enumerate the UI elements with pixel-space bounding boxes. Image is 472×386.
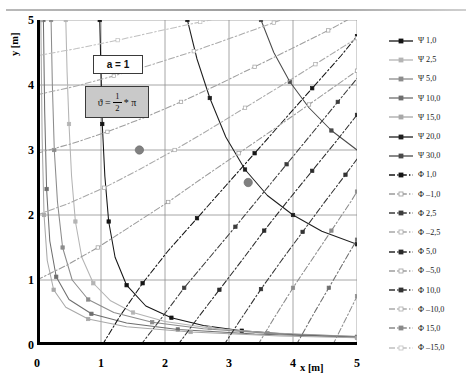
curve-marker xyxy=(330,229,333,232)
legend-item[interactable]: Φ –10,0 xyxy=(388,300,472,319)
curve-marker xyxy=(259,287,262,290)
x-tick-1: 1 xyxy=(91,356,111,371)
curve-marker xyxy=(183,286,186,289)
legend-item[interactable]: Φ 2,5 xyxy=(388,204,472,223)
curve-path xyxy=(37,38,357,215)
legend-item[interactable]: Φ –15,0 xyxy=(388,338,472,357)
annotation-theta: ϑ = 1 2 * π xyxy=(85,86,149,118)
curve-path xyxy=(296,240,357,345)
curve-marker xyxy=(112,74,115,77)
curve-marker xyxy=(125,284,128,287)
curve-marker xyxy=(141,282,144,285)
curve-marker xyxy=(45,187,48,190)
curve-marker xyxy=(64,20,67,22)
curve-marker xyxy=(234,225,237,228)
y-tick-2: 2 xyxy=(16,208,34,223)
legend-item[interactable]: Φ –2,5 xyxy=(388,223,472,242)
x-tick-5: 5 xyxy=(347,356,367,371)
highlight-point[interactable] xyxy=(135,146,143,154)
curve-marker xyxy=(355,190,357,193)
legend-label: Ψ 2,5 xyxy=(414,55,436,64)
theta-numerator: 1 xyxy=(115,92,119,102)
curve-marker xyxy=(243,168,246,171)
legend-item[interactable]: Φ 10,0 xyxy=(388,280,472,299)
x-tick-2: 2 xyxy=(155,356,175,371)
legend-item[interactable]: Φ 5,0 xyxy=(388,242,472,261)
chart-figure: 5 4 3 2 1 0 0 1 2 3 4 5 y [m] x [m] a = … xyxy=(0,0,472,386)
curve-marker xyxy=(272,21,275,24)
curve-marker xyxy=(98,20,101,22)
curve-marker xyxy=(101,122,104,125)
curve-marker xyxy=(90,312,93,315)
legend-item[interactable]: Ψ 20,0 xyxy=(388,127,472,146)
top-divider xyxy=(6,9,466,11)
curve-marker xyxy=(355,336,357,339)
theta-rhs: * π xyxy=(124,97,137,108)
curve-marker xyxy=(192,50,195,53)
legend-item[interactable]: Φ 1,0 xyxy=(388,165,472,184)
legend-item[interactable]: Φ –1,0 xyxy=(388,185,472,204)
curve-marker xyxy=(263,229,266,232)
legend: Ψ 1,0Ψ 2,5Ψ 5,0Ψ 10,0Ψ 15,0Ψ 20,0Ψ 30,0Φ… xyxy=(388,31,472,357)
annotation-theta-expression: ϑ = 1 2 * π xyxy=(98,92,137,112)
curve-marker xyxy=(87,298,90,301)
legend-label: Φ –10,0 xyxy=(414,305,444,314)
legend-swatch-icon xyxy=(388,304,414,314)
legend-item[interactable]: Ψ 5,0 xyxy=(388,69,472,88)
legend-item[interactable]: Ψ 10,0 xyxy=(388,89,472,108)
legend-item[interactable]: Ψ 1,0 xyxy=(388,31,472,50)
y-tick-1: 1 xyxy=(16,273,34,288)
curve-marker xyxy=(327,286,330,289)
curve-marker xyxy=(311,87,314,90)
curve-marker xyxy=(314,63,317,66)
legend-swatch-icon xyxy=(388,55,414,65)
theta-lhs: ϑ = xyxy=(98,97,111,108)
legend-label: Φ –1,0 xyxy=(414,190,440,199)
annotation-a: a = 1 xyxy=(93,55,143,74)
annotation-a-text: a = 1 xyxy=(107,59,130,70)
legend-label: Ψ 1,0 xyxy=(414,36,436,45)
legend-swatch-icon xyxy=(388,189,414,199)
curve-equipotential xyxy=(37,20,211,57)
legend-label: Φ 5,0 xyxy=(414,247,436,256)
curve-marker xyxy=(55,275,58,278)
curve-marker xyxy=(167,200,170,203)
theta-fraction: 1 2 xyxy=(113,92,122,112)
curve-marker xyxy=(243,106,246,109)
highlight-point[interactable] xyxy=(244,178,252,186)
legend-item[interactable]: Φ 15,0 xyxy=(388,319,472,338)
plot-area xyxy=(37,20,357,345)
curve-marker xyxy=(253,152,256,155)
legend-label: Φ –5,0 xyxy=(414,266,440,275)
x-tick-0: 0 xyxy=(27,356,47,371)
plot-canvas xyxy=(37,20,357,345)
curve-marker xyxy=(103,186,106,189)
curve-marker xyxy=(218,288,221,291)
curve-marker xyxy=(179,100,182,103)
legend-item[interactable]: Φ –5,0 xyxy=(388,261,472,280)
curve-equipotential xyxy=(256,190,357,345)
y-tick-5: 5 xyxy=(16,13,34,28)
legend-item[interactable]: Ψ 30,0 xyxy=(388,146,472,165)
legend-swatch-icon xyxy=(388,36,414,46)
curve-marker xyxy=(330,129,333,132)
curve-path xyxy=(102,36,357,345)
y-tick-0: 0 xyxy=(16,338,34,353)
legend-swatch-icon xyxy=(388,266,414,276)
curve-marker xyxy=(170,316,173,319)
curve-marker xyxy=(336,100,339,103)
curve-marker xyxy=(96,246,99,249)
curve-marker xyxy=(253,65,256,68)
legend-label: Φ –15,0 xyxy=(414,343,444,352)
curve-marker xyxy=(344,173,347,176)
legend-swatch-icon xyxy=(388,323,414,333)
legend-label: Φ 15,0 xyxy=(414,324,440,333)
curve-marker xyxy=(307,103,310,106)
legend-swatch-icon xyxy=(388,247,414,257)
curve-marker xyxy=(259,20,262,22)
curve-marker xyxy=(52,288,55,291)
legend-item[interactable]: Ψ 2,5 xyxy=(388,50,472,69)
y-tick-3: 3 xyxy=(16,143,34,158)
curve-marker xyxy=(285,163,288,166)
legend-item[interactable]: Ψ 15,0 xyxy=(388,108,472,127)
